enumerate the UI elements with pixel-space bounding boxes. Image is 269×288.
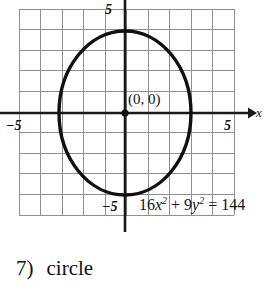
y-axis-tick-label-positive: 5 bbox=[105, 3, 112, 17]
origin-coordinate-label: (0, 0) bbox=[128, 92, 161, 107]
equation-operator: + bbox=[171, 196, 180, 213]
coordinate-graph: 5 −5 −5 5 x (0, 0) 16x2 + 9y2 = 144 bbox=[0, 0, 269, 240]
x-axis-tick-label-negative: −5 bbox=[6, 119, 21, 133]
equation-term1-exponent: 2 bbox=[162, 195, 167, 206]
conic-equation-label: 16x2 + 9y2 = 144 bbox=[139, 196, 245, 213]
answer-text: circle bbox=[47, 256, 94, 281]
equation-equals-sign: = bbox=[208, 196, 217, 213]
x-axis-tick-label-positive: 5 bbox=[224, 119, 231, 133]
answer-line: 7) circle bbox=[16, 256, 93, 281]
origin-point bbox=[121, 109, 128, 116]
problem-number: 7) bbox=[16, 256, 34, 281]
y-axis-tick-label-negative: −5 bbox=[102, 200, 117, 214]
equation-term1-coefficient: 16 bbox=[139, 196, 155, 213]
equation-right-hand-side: 144 bbox=[221, 196, 245, 213]
equation-term2-coefficient: 9 bbox=[184, 196, 192, 213]
equation-term2-exponent: 2 bbox=[199, 195, 204, 206]
worksheet-problem-figure: 5 −5 −5 5 x (0, 0) 16x2 + 9y2 = 144 7) c… bbox=[0, 0, 269, 288]
x-axis-name-label: x bbox=[256, 106, 262, 119]
